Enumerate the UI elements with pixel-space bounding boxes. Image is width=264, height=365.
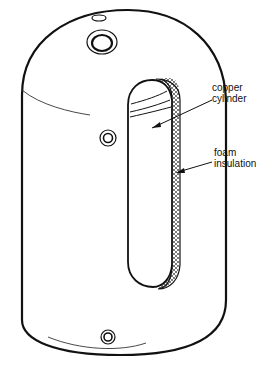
foam-label-line2: insulation — [214, 158, 256, 169]
copper-cylinder-label: copper cylinder — [212, 82, 246, 104]
copper-label-line1: copper — [212, 82, 246, 93]
cylinder-outline — [22, 10, 226, 355]
foam-insulation-label: foam insulation — [214, 147, 256, 169]
cylinder-diagram — [0, 0, 264, 365]
copper-label-line2: cylinder — [212, 93, 246, 104]
foam-label-line1: foam — [214, 147, 256, 158]
